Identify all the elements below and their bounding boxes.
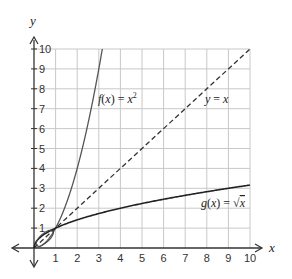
axes: x y [12, 13, 275, 267]
x-tick-label: 3 [96, 252, 102, 264]
y-tick-label: 9 [39, 63, 45, 75]
x-axis-label: x [268, 240, 275, 255]
g-label: g(x) = √x [201, 196, 246, 210]
x-tick-label: 2 [74, 252, 80, 264]
y-tick-label: 8 [39, 83, 45, 95]
x-tick-label: 5 [139, 252, 145, 264]
y-tick-label: 6 [39, 123, 45, 135]
y-tick-label: 10 [39, 43, 51, 55]
identity-label: y = x [204, 92, 229, 106]
x-tick-label: 4 [117, 252, 123, 264]
y-axis-label: y [28, 13, 36, 28]
function-graph: x y 1234567891012345678910 f(x) = x2 y =… [0, 0, 292, 279]
y-tick-label: 3 [39, 182, 45, 194]
y-tick-label: 2 [39, 202, 45, 214]
x-tick-label: 8 [204, 252, 210, 264]
y-tick-label: 4 [39, 162, 45, 174]
x-tick-label: 1 [53, 252, 59, 264]
x-tick-label: 10 [244, 252, 256, 264]
f-label: f(x) = x2 [98, 91, 137, 106]
y-tick-label: 7 [39, 103, 45, 115]
x-tick-label: 6 [161, 252, 167, 264]
tick-labels: 1234567891012345678910 [31, 43, 256, 264]
x-tick-label: 7 [182, 252, 188, 264]
x-tick-label: 9 [225, 252, 231, 264]
y-tick-label: 5 [39, 143, 45, 155]
